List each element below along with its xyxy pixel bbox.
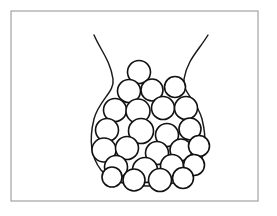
circle-24 <box>173 168 194 189</box>
circle-23 <box>149 169 172 192</box>
circle-8 <box>175 97 198 120</box>
circle-17 <box>189 136 210 157</box>
circle-22 <box>123 169 145 191</box>
circle-25 <box>102 167 122 187</box>
figure-canvas <box>0 0 277 216</box>
circle-7 <box>152 97 175 120</box>
circle-4 <box>165 77 186 98</box>
vase-line-drawing <box>0 0 277 216</box>
circle-cluster <box>92 61 210 192</box>
